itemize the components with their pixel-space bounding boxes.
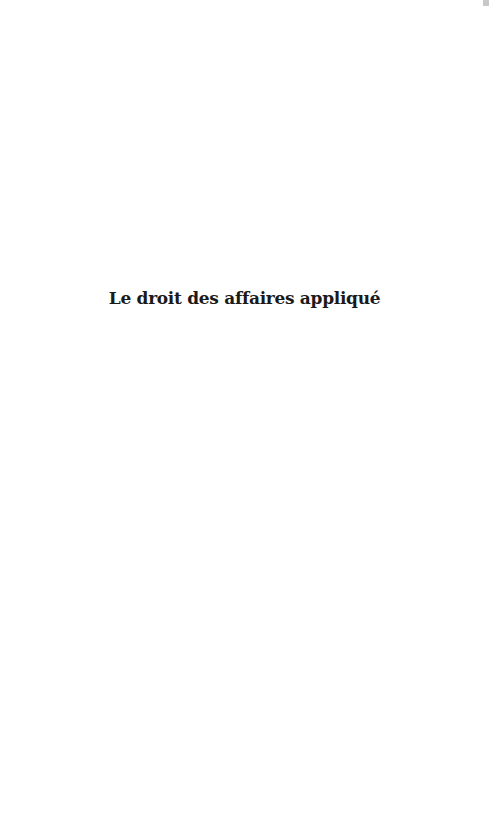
document-page: Le droit des affaires appliqué <box>0 0 489 816</box>
document-title: Le droit des affaires appliqué <box>0 288 489 308</box>
scrollbar-thumb[interactable] <box>483 0 489 6</box>
